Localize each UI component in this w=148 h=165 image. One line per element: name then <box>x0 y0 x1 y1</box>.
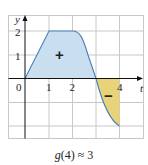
origin-label: 0 <box>16 81 22 93</box>
plus-sign: + <box>55 46 64 63</box>
x-tick-1: 1 <box>46 81 52 93</box>
caption: g(4) ≈ 3 <box>0 148 148 163</box>
y-tick-2: 2 <box>15 26 21 38</box>
y-tick-1: 1 <box>15 50 21 62</box>
y-axis-label: y <box>14 13 20 25</box>
x-tick-4: 4 <box>117 81 123 93</box>
chart: y t 2 1 0 1 2 4 + − <box>0 0 148 148</box>
x-tick-2: 2 <box>70 81 76 93</box>
caption-rest: (4) ≈ 3 <box>61 148 94 162</box>
minus-sign: − <box>104 87 113 104</box>
t-axis-arrow-icon <box>137 76 143 81</box>
